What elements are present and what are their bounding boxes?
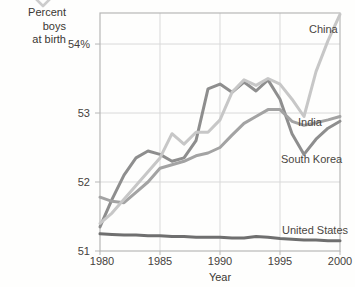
series-label-india: India xyxy=(298,116,322,128)
series-label-china: China xyxy=(309,23,338,35)
x-axis-title: Year xyxy=(100,271,340,283)
x-tick-1995: 1995 xyxy=(268,255,292,267)
x-tick-1980: 1980 xyxy=(90,255,114,267)
y-tick-54: 54% xyxy=(50,38,90,50)
y-tick-51: 51 xyxy=(50,245,90,257)
x-tick-1985: 1985 xyxy=(148,255,172,267)
x-tick-1990: 1990 xyxy=(208,255,232,267)
y-tick-52: 52 xyxy=(50,176,90,188)
y-tick-53: 53 xyxy=(50,107,90,119)
x-tick-2000: 2000 xyxy=(328,255,352,267)
series-label-south-korea: South Korea xyxy=(281,153,342,165)
series-label-united-states: United States xyxy=(282,224,348,236)
chart-page: Percent boys at birth 54% 53 52 51 1980 … xyxy=(0,0,355,287)
